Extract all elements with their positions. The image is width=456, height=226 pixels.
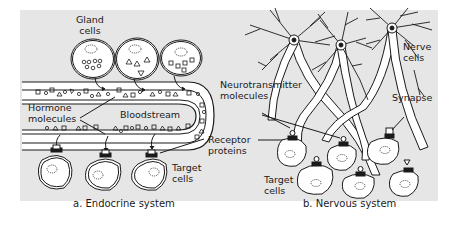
- label-hormone-molecules: Hormone molecules: [28, 103, 76, 124]
- label-neurotransmitter-molecules: Neurotransmitter molecules: [220, 80, 302, 101]
- gland-cell-2: [115, 38, 159, 80]
- gland-cell-1: [71, 39, 115, 79]
- label-gland-cells: Gland cells: [76, 15, 104, 36]
- label-endocrine-target-cells: Target cells: [172, 163, 201, 184]
- endocrine-target-cells: [38, 155, 166, 190]
- nervous-target-cells: [278, 138, 419, 198]
- label-bloodstream: Bloodstream: [120, 110, 180, 121]
- label-synapse: Synapse: [392, 93, 432, 104]
- label-nerve-cells: Nerve cells: [403, 42, 431, 63]
- label-receptor-proteins: Receptor proteins: [208, 135, 251, 156]
- gland-cell-3: [160, 40, 202, 76]
- caption-nervous-system: b. Nervous system: [303, 198, 396, 209]
- label-nervous-target-cells: Target cells: [264, 175, 293, 196]
- caption-endocrine-system: a. Endocrine system: [73, 198, 175, 209]
